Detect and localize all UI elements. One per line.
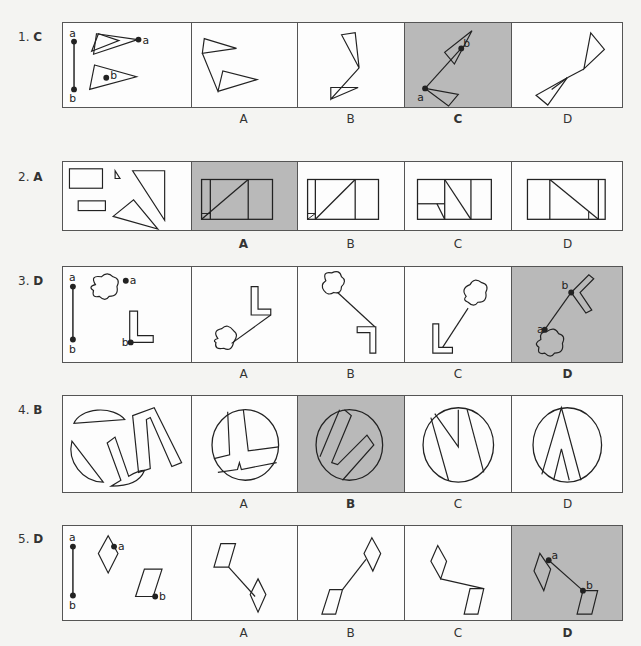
- svg-text:a: a: [69, 271, 76, 284]
- question-3-option-d[interactable]: b a: [511, 267, 622, 362]
- svg-text:a: a: [130, 274, 137, 287]
- circle-pieces-figure: [63, 396, 191, 492]
- question-4-option-c[interactable]: [404, 396, 512, 492]
- question-5-option-a[interactable]: [191, 526, 298, 620]
- question-4-option-b[interactable]: [297, 396, 404, 492]
- question-5-option-b[interactable]: [297, 526, 404, 620]
- question-5-option-c[interactable]: [404, 526, 512, 620]
- rectangles-and-triangles-figure: [63, 162, 191, 230]
- option-label-b: B: [297, 112, 404, 126]
- svg-text:b: b: [159, 590, 166, 603]
- option-label-b: B: [297, 497, 404, 511]
- option-label-c: C: [404, 367, 512, 381]
- question-3-option-c[interactable]: [404, 267, 512, 362]
- question-3-prompt-figure: a b a b: [63, 267, 191, 362]
- option-label-d: D: [512, 367, 623, 381]
- question-2-panel: [62, 161, 623, 231]
- question-4-prompt-figure: [63, 396, 191, 492]
- svg-text:a: a: [537, 323, 544, 336]
- option-label-d: D: [512, 112, 623, 126]
- question-2-option-a[interactable]: [191, 162, 298, 230]
- option-label-c: C: [404, 112, 512, 126]
- svg-text:b: b: [586, 579, 593, 592]
- option-label-a: A: [190, 497, 297, 511]
- question-3-panel: a b a b: [62, 266, 623, 363]
- question-1-option-d[interactable]: [511, 23, 622, 107]
- option-label-c: C: [404, 626, 512, 640]
- question-1-option-c[interactable]: b a: [404, 23, 512, 107]
- question-1-panel: a b a b b: [62, 22, 623, 108]
- svg-text:b: b: [110, 69, 117, 82]
- question-4-option-d[interactable]: [511, 396, 622, 492]
- question-2-prompt-figure: [63, 162, 191, 230]
- option-label-a: A: [190, 112, 297, 126]
- question-2-option-c[interactable]: [404, 162, 512, 230]
- option-label-c: C: [404, 497, 512, 511]
- question-answer: C: [33, 30, 42, 44]
- svg-text:a: a: [142, 34, 149, 47]
- svg-text:b: b: [69, 92, 76, 105]
- option-label-a: A: [190, 626, 297, 640]
- option-label-b: B: [297, 237, 404, 251]
- option-label-c: C: [404, 237, 512, 251]
- question-1-prompt-figure: a b a b: [63, 23, 191, 107]
- question-5-label: 5. D: [18, 532, 43, 546]
- question-2-option-b[interactable]: [297, 162, 404, 230]
- question-1-label: 1. C: [18, 30, 42, 44]
- option-label-b: B: [297, 367, 404, 381]
- question-3-option-b[interactable]: [297, 267, 404, 362]
- question-3-option-a[interactable]: [191, 267, 298, 362]
- svg-text:b: b: [122, 336, 129, 349]
- question-3-label: 3. D: [18, 274, 43, 288]
- question-1-option-b[interactable]: [297, 23, 404, 107]
- question-number: 1.: [18, 30, 29, 44]
- option-label-b: B: [297, 626, 404, 640]
- svg-text:b: b: [463, 37, 470, 50]
- option-label-d: D: [512, 626, 623, 640]
- svg-text:a: a: [552, 549, 559, 562]
- svg-text:a: a: [69, 531, 76, 544]
- svg-text:a: a: [417, 91, 424, 104]
- line-cloud-l-shape-figure: a b a b: [63, 267, 191, 362]
- svg-text:b: b: [69, 599, 76, 612]
- svg-text:a: a: [118, 540, 125, 553]
- question-2-option-d[interactable]: [511, 162, 622, 230]
- option-label-d: D: [512, 497, 623, 511]
- question-1-option-a[interactable]: [191, 23, 298, 107]
- svg-text:b: b: [69, 343, 76, 356]
- question-4-panel: [62, 395, 623, 493]
- question-4-option-a[interactable]: [191, 396, 298, 492]
- question-2-label: 2. A: [18, 170, 43, 184]
- question-5-prompt-figure: a b a b: [63, 526, 191, 620]
- question-1-option-labels: A B C D: [62, 112, 623, 126]
- question-4-label: 4. B: [18, 403, 42, 417]
- option-label-d: D: [512, 237, 623, 251]
- option-label-a: A: [190, 237, 297, 251]
- svg-text:b: b: [562, 279, 569, 292]
- question-5-option-d[interactable]: a b: [511, 526, 622, 620]
- line-and-triangles-figure: a b a b: [63, 23, 191, 107]
- line-rhombus-parallelogram-figure: a b a b: [63, 526, 191, 620]
- question-5-panel: a b a b: [62, 525, 623, 621]
- option-label-a: A: [190, 367, 297, 381]
- svg-text:a: a: [69, 27, 76, 40]
